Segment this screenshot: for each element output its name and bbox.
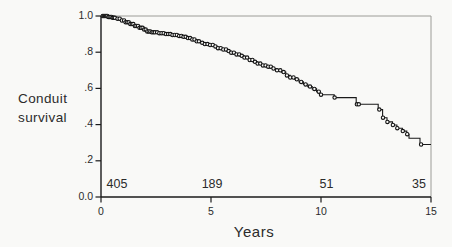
km-survival-figure: 0.0.2.4.6.81.00510154051895135 Conduit s… [0,0,452,247]
at-risk-count: 51 [320,177,334,191]
censor-mark [406,133,409,136]
y-tick-label: 0.0 [78,190,93,202]
censor-mark [391,123,394,126]
censor-mark [300,80,303,83]
survival-curve [101,16,431,145]
censor-mark [419,143,422,146]
x-axis-title: Years [234,223,274,240]
y-axis-title-line-1: Conduit [18,91,67,106]
censor-mark [333,96,336,99]
censor-mark [357,103,360,106]
y-tick-label: .4 [84,117,93,129]
x-tick-label: 0 [98,205,104,217]
y-tick-label: .2 [84,153,93,165]
censor-mark [285,74,288,77]
censor-mark [282,70,285,73]
censor-mark [308,85,311,88]
x-tick-label: 15 [425,205,437,217]
km-plot-canvas: 0.0.2.4.6.81.00510154051895135 Conduit s… [0,0,452,247]
at-risk-count: 189 [202,177,223,191]
censor-mark [295,78,298,81]
censor-mark [272,67,275,70]
censor-mark [381,116,384,119]
x-tick-label: 10 [315,205,327,217]
y-tick-label: .6 [84,81,93,93]
at-risk-count: 405 [107,177,128,191]
censor-mark [386,120,389,123]
censor-mark [396,127,399,130]
at-risk-count: 35 [412,177,426,191]
censor-mark [401,129,404,132]
censor-mark [319,93,322,96]
censor-mark [304,83,307,86]
x-tick-label: 5 [208,205,214,217]
y-axis-title-line-2: survival [18,110,67,125]
censor-mark [378,108,381,111]
y-tick-label: 1.0 [78,9,93,21]
censor-mark [313,87,316,90]
y-tick-label: .8 [84,45,93,57]
